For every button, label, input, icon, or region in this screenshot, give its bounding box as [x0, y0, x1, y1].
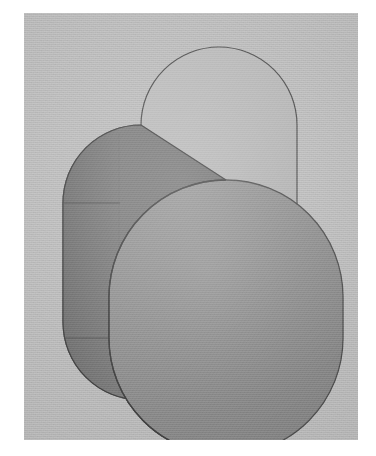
front-face-sheen — [109, 180, 343, 440]
scan-plate — [24, 13, 358, 440]
obround-prism-drawing — [24, 13, 358, 440]
figure-root — [0, 0, 376, 456]
front-face — [109, 180, 343, 440]
